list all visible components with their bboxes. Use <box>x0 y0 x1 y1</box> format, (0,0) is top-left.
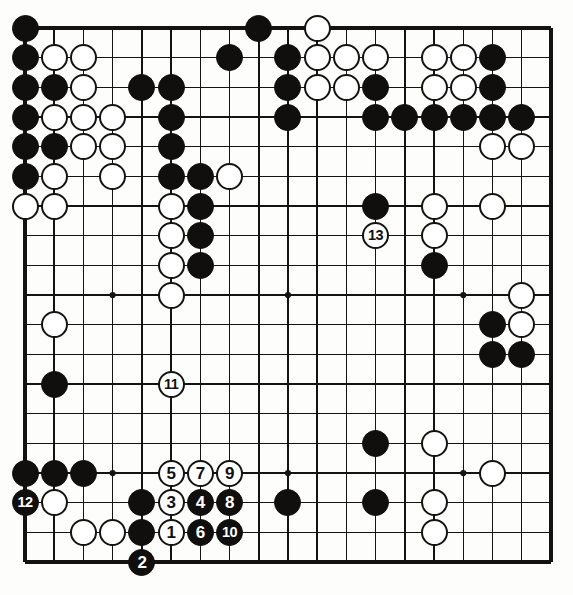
move-stone-8: 8 <box>216 489 243 516</box>
move-stone-3: 3 <box>158 489 185 516</box>
move-stone-6: 6 <box>187 519 214 546</box>
go-diagram-figure: 12345678910111213 <box>0 0 573 595</box>
move-number-layer: 12345678910111213 <box>0 0 573 595</box>
move-number-label: 7 <box>196 464 205 481</box>
move-number-label: 11 <box>164 376 178 391</box>
go-board[interactable]: 12345678910111213 <box>0 0 573 595</box>
move-stone-2: 2 <box>128 549 155 576</box>
move-number-label: 12 <box>17 495 32 510</box>
move-stone-1: 1 <box>158 519 185 546</box>
move-stone-13: 13 <box>362 222 389 249</box>
move-number-label: 8 <box>225 494 234 511</box>
move-stone-4: 4 <box>187 489 214 516</box>
move-stone-11: 11 <box>158 371 185 398</box>
move-stone-12: 12 <box>12 489 39 516</box>
move-number-label: 2 <box>137 553 146 570</box>
move-number-label: 13 <box>368 228 383 243</box>
move-number-label: 4 <box>196 494 205 511</box>
move-stone-10: 10 <box>216 519 243 546</box>
move-number-label: 10 <box>222 525 237 540</box>
move-stone-5: 5 <box>158 460 185 487</box>
move-stone-9: 9 <box>216 460 243 487</box>
move-number-label: 5 <box>167 464 176 481</box>
move-number-label: 1 <box>167 523 176 540</box>
move-number-label: 3 <box>167 494 176 511</box>
move-number-label: 6 <box>196 523 205 540</box>
move-stone-7: 7 <box>187 460 214 487</box>
move-number-label: 9 <box>225 464 234 481</box>
